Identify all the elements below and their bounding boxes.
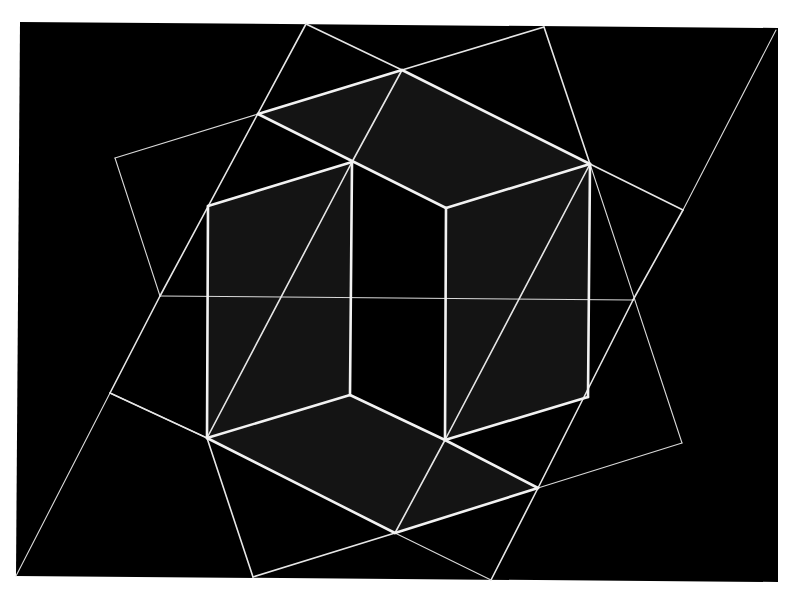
bold-line-segment bbox=[207, 206, 208, 438]
geometric-artwork bbox=[0, 0, 789, 604]
bold-line-segment bbox=[445, 208, 446, 440]
